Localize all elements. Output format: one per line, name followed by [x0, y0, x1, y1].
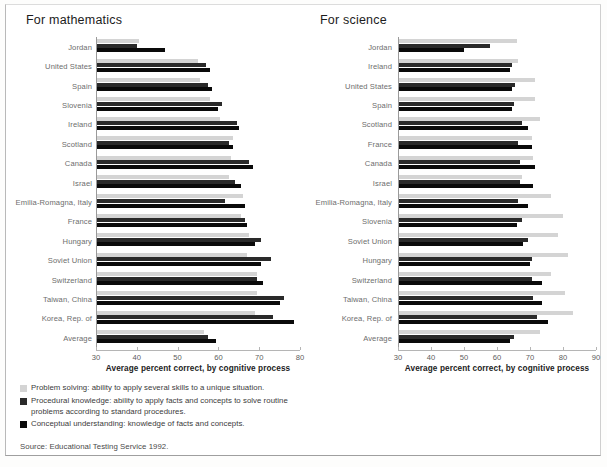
category-label: Average [6, 333, 92, 342]
bar-series-0 [97, 272, 257, 276]
bar-series-0 [97, 233, 249, 237]
category-label: Switzerland [6, 275, 92, 284]
bar-series-1 [399, 199, 518, 203]
bar-series-1 [399, 218, 522, 222]
bar-series-0 [399, 136, 532, 140]
bar-series-2 [399, 48, 464, 52]
category-label: Soviet Union [306, 236, 392, 245]
category-label: Canada [6, 159, 92, 168]
bar-series-0 [399, 156, 533, 160]
x-axis-tick [178, 347, 179, 350]
bar-series-2 [97, 68, 210, 72]
plot-area-mathematics: JordanUnited StatesSpainSloveniaIrelandS… [6, 31, 306, 353]
category-label: Soviet Union [6, 256, 92, 265]
bar-series-0 [399, 291, 565, 295]
x-axis-tick [398, 347, 399, 350]
bar-series-2 [399, 107, 512, 111]
bar-series-2 [97, 262, 261, 266]
bar-series-1 [97, 83, 208, 87]
legend-item: Procedural knowledge: ability to apply f… [20, 396, 300, 417]
bar-series-0 [97, 78, 200, 82]
bar-series-0 [97, 39, 139, 43]
x-axis-tick [530, 347, 531, 350]
bar-series-0 [399, 59, 518, 63]
bar-series-1 [399, 83, 515, 87]
x-axis-tick-label: 40 [427, 353, 435, 362]
bar-series-0 [399, 330, 540, 334]
x-axis-line [398, 350, 596, 351]
category-label: Hungary [6, 236, 92, 245]
category-label: Jordan [306, 42, 392, 51]
panel-title-mathematics: For mathematics [26, 13, 122, 27]
category-label: Average [306, 333, 392, 342]
bar-series-1 [399, 160, 520, 164]
bar-series-1 [97, 315, 273, 319]
bar-series-2 [97, 301, 280, 305]
x-axis-tick-label: 70 [255, 353, 263, 362]
x-axis-title: Average percent correct, by cognitive pr… [405, 364, 589, 373]
category-label: Korea, Rep. of [6, 314, 92, 323]
bar-series-2 [399, 320, 548, 324]
bar-series-0 [399, 214, 563, 218]
category-label: Spain [306, 100, 392, 109]
bar-series-0 [97, 59, 198, 63]
bar-series-1 [97, 63, 206, 67]
bar-series-2 [399, 281, 542, 285]
category-label: France [306, 139, 392, 148]
category-label: Israel [6, 178, 92, 187]
bar-series-2 [97, 223, 247, 227]
bar-series-2 [97, 281, 263, 285]
plot-area-science: JordanIrelandUnited StatesSpainScotlandF… [306, 31, 602, 353]
bar-series-2 [399, 87, 512, 91]
x-axis-tick [464, 347, 465, 350]
category-label: United States [6, 62, 92, 71]
legend-swatch-icon [20, 398, 27, 405]
legend-label: Procedural knowledge: ability to apply f… [31, 396, 300, 417]
x-axis-tick-label: 50 [173, 353, 181, 362]
x-axis-tick-label: 30 [394, 353, 402, 362]
bar-series-0 [399, 253, 568, 257]
bar-series-2 [399, 339, 510, 343]
x-axis-tick [259, 347, 260, 350]
bar-series-0 [399, 39, 517, 43]
bar-series-0 [97, 117, 220, 121]
x-axis-tick-label: 40 [133, 353, 141, 362]
category-label: France [6, 217, 92, 226]
category-label: Slovenia [306, 217, 392, 226]
bar-series-1 [97, 121, 237, 125]
bar-series-0 [97, 253, 247, 257]
bar-series-2 [399, 204, 528, 208]
bar-series-0 [399, 117, 540, 121]
category-label: Korea, Rep. of [306, 314, 392, 323]
legend-item: Problem solving: ability to apply severa… [20, 383, 300, 394]
source-note: Source: Educational Testing Service 1992… [20, 442, 168, 451]
bar-series-0 [97, 214, 241, 218]
panel-mathematics: For mathematics JordanUnited StatesSpain… [6, 5, 306, 457]
figure-frame: For mathematics JordanUnited StatesSpain… [5, 4, 601, 456]
bar-series-0 [399, 194, 551, 198]
bar-series-0 [97, 291, 257, 295]
x-axis-tick [596, 347, 597, 350]
bar-series-2 [97, 145, 233, 149]
x-axis-tick-label: 50 [460, 353, 468, 362]
x-axis-tick-label: 80 [559, 353, 567, 362]
x-axis-tick [96, 347, 97, 350]
x-axis-tick [218, 347, 219, 350]
legend-mathematics: Problem solving: ability to apply severa… [20, 383, 300, 432]
x-axis-tick [300, 347, 301, 350]
bar-series-2 [97, 48, 165, 52]
bar-series-1 [97, 180, 235, 184]
x-axis-line [96, 350, 300, 351]
x-axis-title: Average percent correct, by cognitive pr… [106, 364, 290, 373]
bar-series-1 [97, 257, 271, 261]
bar-series-1 [399, 141, 518, 145]
bar-series-2 [97, 165, 253, 169]
category-label: Spain [6, 81, 92, 90]
bar-series-1 [399, 277, 532, 281]
legend-swatch-icon [20, 421, 27, 428]
bar-series-1 [97, 44, 137, 48]
category-label: Jordan [6, 42, 92, 51]
bar-series-1 [97, 102, 222, 106]
bar-series-1 [399, 44, 490, 48]
bar-series-2 [399, 68, 510, 72]
